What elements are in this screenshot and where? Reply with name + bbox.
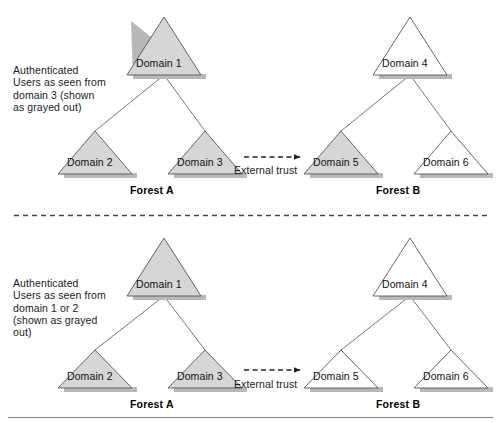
domain-label-bottom-domain-5: Domain 5 bbox=[313, 370, 359, 382]
note-top: Authenticated Users as seen from domain … bbox=[13, 64, 131, 113]
domain-label-bottom-domain-1: Domain 1 bbox=[136, 278, 182, 290]
diagram-canvas: Authenticated Users as seen from domain … bbox=[0, 0, 501, 423]
domain-label-bottom-domain-4: Domain 4 bbox=[382, 278, 428, 290]
external-trust-label-top: External trust bbox=[234, 164, 297, 176]
panel-top: Authenticated Users as seen from domain … bbox=[0, 0, 501, 212]
domain-label-top-domain-4: Domain 4 bbox=[382, 57, 428, 69]
domain-label-bottom-domain-3: Domain 3 bbox=[177, 370, 223, 382]
domain-label-top-domain-5: Domain 5 bbox=[313, 156, 359, 168]
external-trust-label-bottom: External trust bbox=[234, 378, 297, 390]
note-bottom: Authenticated Users as seen from domain … bbox=[13, 277, 131, 338]
domain-label-bottom-domain-2: Domain 2 bbox=[67, 370, 113, 382]
forest-label-top-a: Forest A bbox=[130, 184, 174, 196]
domain-label-top-domain-2: Domain 2 bbox=[67, 156, 113, 168]
forest-label-bottom-b: Forest B bbox=[376, 398, 420, 410]
forest-label-top-b: Forest B bbox=[376, 184, 420, 196]
domain-label-bottom-domain-6: Domain 6 bbox=[423, 370, 469, 382]
domain-label-top-domain-3: Domain 3 bbox=[177, 156, 223, 168]
panel-bottom: Authenticated Users as seen from domain … bbox=[0, 212, 501, 423]
forest-label-bottom-a: Forest A bbox=[130, 398, 174, 410]
domain-label-top-domain-1: Domain 1 bbox=[136, 57, 182, 69]
domain-label-top-domain-6: Domain 6 bbox=[423, 156, 469, 168]
